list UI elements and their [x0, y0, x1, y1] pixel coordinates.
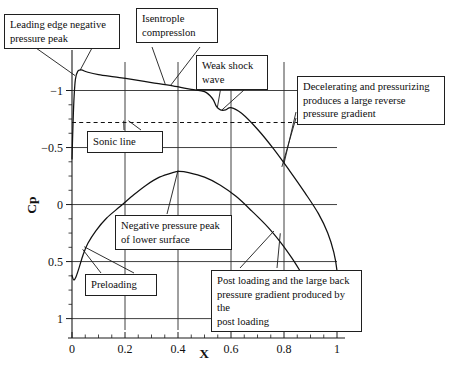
leader-line-1	[80, 48, 92, 71]
x-tick-label-0.8: 0.8	[277, 342, 292, 356]
y-tick-label--1: −1	[50, 84, 63, 98]
x-tick-label-0.4: 0.4	[171, 342, 186, 356]
annotation-isentropic-compression: Isentrople compresslon	[136, 8, 218, 43]
y-tick-label-0.5: 0.5	[48, 255, 63, 269]
annotation-decelerating-and-pressurizing: Decelerating and pressurizing produces a…	[297, 76, 445, 125]
annotation-post-loading-back-pressure-gradient: Post loading and the large back pressure…	[211, 270, 362, 332]
annotation-leading-edge-negative-pressure-peak: Leading edge negative pressure peak	[4, 14, 120, 49]
y-tick-label-1: 1	[57, 312, 63, 326]
y-tick-label--0.5: −0.5	[41, 141, 63, 155]
x-axis-title: X	[199, 346, 209, 361]
leader-line-13	[240, 231, 274, 268]
leader-line-11	[84, 247, 134, 273]
figure-canvas: −1−0.500.5100.20.40.60.81 X Cp Leading e…	[0, 0, 452, 372]
x-tick-label-0: 0	[69, 342, 75, 356]
leader-line-2	[152, 47, 165, 84]
y-axis-title: Cp	[24, 196, 39, 213]
leader-line-0	[36, 48, 75, 76]
x-tick-label-0.6: 0.6	[224, 342, 239, 356]
annotation-weak-shock-wave: Weak shock wave	[196, 55, 268, 90]
x-tick-label-1: 1	[334, 342, 340, 356]
x-tick-label-0.2: 0.2	[118, 342, 133, 356]
y-tick-label-0: 0	[57, 198, 63, 212]
leader-line-5	[222, 90, 244, 110]
annotation-negative-pressure-peak-of-lower-surface: Negative pressure peak of lower surface	[115, 215, 232, 250]
annotation-preloading: Preloading	[85, 274, 157, 296]
leader-line-10	[167, 170, 178, 214]
annotation-sonic-line: Sonic line	[87, 131, 163, 153]
